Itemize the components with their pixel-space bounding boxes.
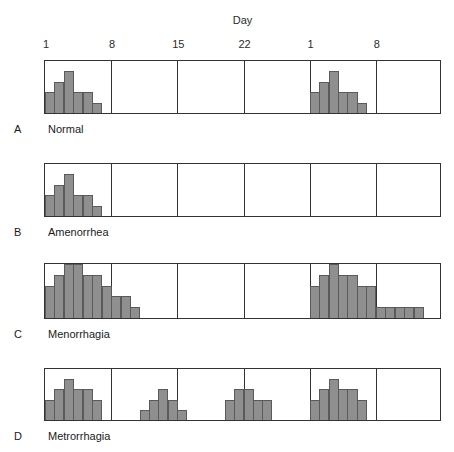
bar-day-15 (177, 410, 187, 420)
x-tick-label-0: 1 (43, 38, 49, 50)
bar-day-40 (414, 307, 424, 318)
bar-day-6 (92, 103, 102, 113)
panel-letter-c: C (14, 328, 22, 340)
panel-caption-b: Amenorrhea (48, 226, 109, 238)
gridline-3 (244, 164, 245, 216)
panel-caption-c: Menorrhagia (48, 328, 110, 340)
gridline-1 (111, 164, 112, 216)
panel-letter-d: D (14, 430, 22, 442)
panel-d (44, 368, 441, 421)
panel-a (44, 60, 441, 114)
panel-b (44, 163, 441, 217)
gridline-5 (376, 369, 377, 420)
bar-day-6 (92, 400, 102, 420)
bar-day-34 (357, 400, 367, 420)
gridline-2 (177, 61, 178, 113)
gridline-2 (177, 264, 178, 318)
gridline-3 (244, 264, 245, 318)
x-tick-label-1: 8 (109, 38, 115, 50)
x-tick-label-3: 22 (238, 38, 250, 50)
panel-letter-a: A (14, 123, 21, 135)
menstrual-bleeding-pattern-figure: Day 18152218 ANormalBAmenorrheaCMenorrha… (0, 0, 454, 452)
panel-caption-a: Normal (48, 123, 83, 135)
x-tick-label-4: 1 (308, 38, 314, 50)
x-tick-label-2: 15 (172, 38, 184, 50)
x-tick-label-5: 8 (374, 38, 380, 50)
panel-letter-b: B (14, 226, 21, 238)
gridline-2 (177, 164, 178, 216)
gridline-5 (376, 164, 377, 216)
gridline-5 (376, 61, 377, 113)
axis-title-day: Day (44, 14, 441, 26)
bar-day-10 (130, 307, 140, 318)
panel-c (44, 263, 441, 319)
gridline-1 (111, 61, 112, 113)
gridline-3 (244, 61, 245, 113)
gridline-4 (310, 164, 311, 216)
bar-day-6 (92, 206, 102, 216)
bar-day-24 (262, 400, 272, 420)
panel-caption-d: Metrorrhagia (48, 430, 110, 442)
bar-day-34 (357, 103, 367, 113)
gridline-1 (111, 369, 112, 420)
